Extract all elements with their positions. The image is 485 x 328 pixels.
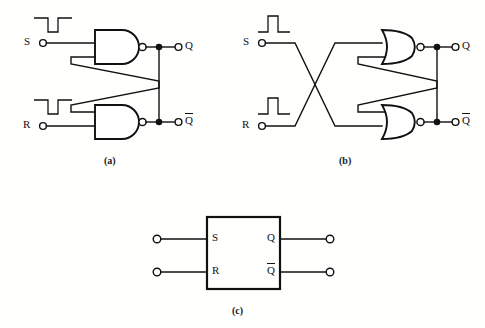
panel-c	[153, 217, 334, 289]
sr-flipflop-figure: .w{stroke:#111111;stroke-width:1.4;fill:…	[0, 0, 485, 328]
qbar-pin-label-c: Q	[267, 264, 275, 276]
qbar-output-label-b: Q	[462, 114, 470, 126]
qbar-output-label-a: Q	[185, 114, 193, 126]
upper-nand-gate-a	[95, 30, 139, 64]
q-output-terminal-b[interactable]	[452, 44, 459, 51]
panel-b	[258, 16, 459, 139]
r-input-terminal-b[interactable]	[259, 123, 266, 130]
q-pin-label-c: Q	[267, 231, 275, 243]
circuit-svg: .w{stroke:#111111;stroke-width:1.4;fill:…	[0, 0, 485, 328]
s-input-terminal-c[interactable]	[153, 235, 161, 243]
q-output-terminal-a[interactable]	[175, 44, 182, 51]
s-pin-label-c: S	[212, 231, 218, 243]
r-input-label-b: R	[242, 118, 249, 130]
r-input-terminal-a[interactable]	[40, 123, 47, 130]
caption-b: (b)	[339, 155, 351, 166]
qbar-output-terminal-a[interactable]	[175, 119, 182, 126]
s-input-terminal-a[interactable]	[40, 40, 47, 47]
qbar-overline-a: Q	[185, 114, 193, 126]
r-input-terminal-c[interactable]	[153, 268, 161, 276]
r-input-pulse-waveform-a	[34, 100, 72, 114]
s-input-pulse-waveform-a	[34, 18, 72, 32]
qbar-output-terminal-c[interactable]	[326, 268, 334, 276]
flipflop-block-body	[207, 217, 280, 289]
upper-nor-bubble-b	[417, 43, 424, 50]
qbar-overline-c: Q	[267, 264, 275, 276]
panel-a	[34, 18, 182, 139]
qbar-output-terminal-b[interactable]	[452, 119, 459, 126]
q-output-label-b: Q	[462, 39, 470, 51]
qbar-overline-b: Q	[462, 114, 470, 126]
lower-nand-gate-a	[95, 105, 139, 139]
r-input-label-a: R	[23, 118, 30, 130]
caption-c: (c)	[232, 305, 243, 316]
r-pin-label-c: R	[212, 264, 219, 276]
s-input-label-a: S	[24, 35, 30, 47]
q-output-terminal-c[interactable]	[326, 235, 334, 243]
s-input-pulse-waveform-b	[258, 16, 290, 32]
upper-nor-gate-b	[382, 30, 415, 64]
r-input-pulse-waveform-b	[258, 98, 290, 114]
s-input-terminal-b[interactable]	[259, 40, 266, 47]
lower-nand-bubble-a	[139, 118, 146, 125]
lower-nor-bubble-b	[417, 118, 424, 125]
upper-nand-bubble-a	[139, 43, 146, 50]
caption-a: (a)	[104, 155, 116, 166]
q-output-label-a: Q	[185, 39, 193, 51]
s-input-label-b: S	[243, 35, 249, 47]
lower-nor-gate-b	[382, 105, 415, 139]
